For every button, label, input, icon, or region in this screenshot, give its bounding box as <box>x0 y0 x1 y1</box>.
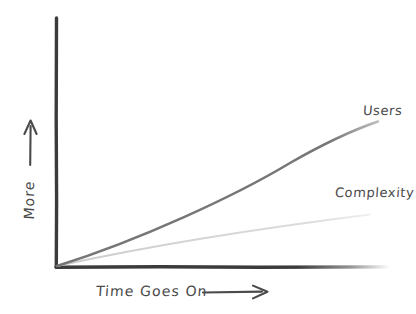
series-label-users: Users <box>362 103 402 118</box>
chart-canvas <box>0 0 416 314</box>
x-axis-line <box>56 267 390 268</box>
series-line-complexity <box>57 215 370 267</box>
x-axis-label: Time Goes On <box>95 283 208 299</box>
series-label-complexity: Complexity <box>334 185 414 200</box>
series-line-users <box>57 122 378 267</box>
y-axis-label: More <box>21 170 37 229</box>
chart-container: Users Complexity Time Goes On More <box>0 0 416 314</box>
y-axis-arrow-icon <box>24 121 36 166</box>
y-axis-label-wrapper: More <box>14 172 44 234</box>
x-axis-arrow-icon <box>203 286 268 299</box>
